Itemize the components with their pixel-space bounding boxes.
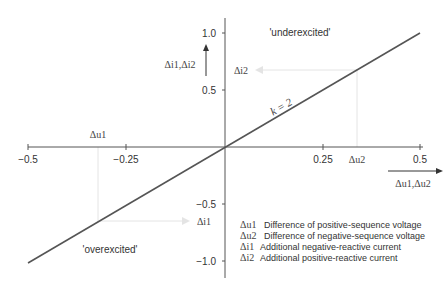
- y-tick-label: 0.5: [202, 85, 216, 96]
- legend-text: Additional positive-reactive current: [260, 253, 398, 263]
- underexcited-label: 'underexcited': [269, 27, 330, 38]
- y-tick-label: −1.0: [196, 256, 216, 267]
- du1-label: Δu1: [90, 129, 106, 140]
- x-tick-label: 0.5: [413, 154, 427, 165]
- legend-text: Difference of negative-sequence voltage: [264, 231, 425, 241]
- x-tick-label: −0.25: [113, 154, 139, 165]
- x-axis-label: Δu1,Δu2: [395, 178, 430, 189]
- x-tick-label: −0.5: [18, 154, 38, 165]
- arrow-right-icon: [436, 168, 443, 174]
- legend-text: Difference of positive-sequence voltage: [264, 220, 421, 230]
- di1-arrowhead-icon: [182, 217, 190, 225]
- overexcited-label: 'overexcited': [83, 244, 138, 255]
- x-tick-label: 0.25: [313, 154, 333, 165]
- legend: Δu1 Difference of positive-sequence volt…: [240, 219, 425, 263]
- di2-label: Δi2: [234, 65, 248, 76]
- legend-text: Additional negative-reactive current: [260, 242, 402, 252]
- legend-symbol: Δi2: [240, 252, 254, 263]
- y-tick-label: 1.0: [202, 28, 216, 39]
- y-axis-label: Δi1,Δi2: [165, 59, 196, 70]
- arrow-up-icon: [203, 44, 209, 51]
- du2-label: Δu2: [349, 154, 365, 165]
- di2-arrowhead-icon: [255, 66, 263, 74]
- legend-symbol: Δu2: [240, 230, 256, 241]
- di1-label: Δi1: [197, 216, 211, 227]
- chart: −0.5 −0.25 0.25 0.5 1.0 0.5 −0.5 −1.0 Δi…: [0, 0, 447, 285]
- legend-symbol: Δi1: [240, 241, 254, 252]
- y-tick-label: −0.5: [196, 199, 216, 210]
- legend-symbol: Δu1: [240, 219, 256, 230]
